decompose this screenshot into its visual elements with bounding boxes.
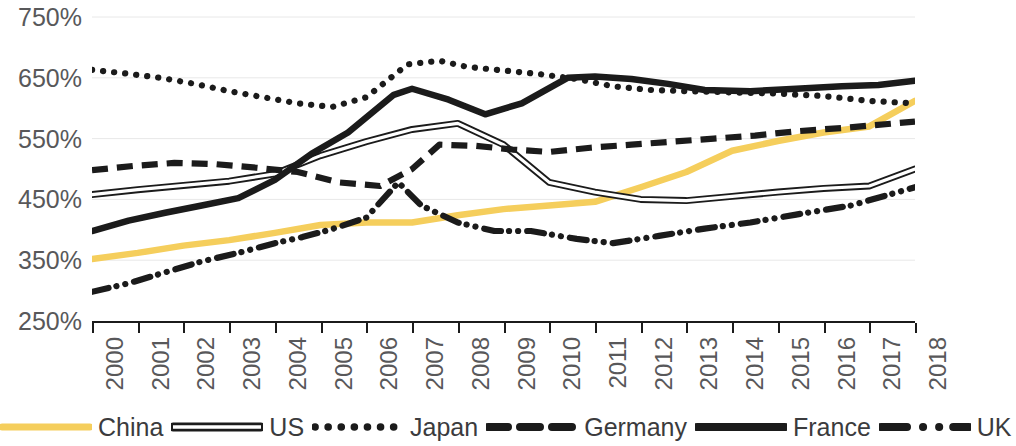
x-tick-label: 2008	[467, 337, 495, 390]
x-tick-label: 2001	[147, 337, 175, 390]
legend-swatch-japan-icon	[312, 419, 404, 435]
legend-label: Germany	[584, 413, 687, 442]
plot-area	[92, 14, 915, 321]
series-line-germany	[92, 122, 915, 186]
chart-legend: China USJapanGermanyFranceUK	[0, 408, 925, 446]
legend-swatch-uk-icon	[879, 419, 971, 435]
x-tick-label: 2011	[604, 337, 632, 389]
legend-label: Japan	[410, 413, 478, 442]
x-tick-label: 2002	[192, 337, 220, 390]
x-tick	[229, 323, 231, 333]
x-tick	[412, 323, 414, 333]
x-tick	[275, 323, 277, 333]
x-tick	[366, 323, 368, 333]
legend-swatch-france-icon	[695, 419, 787, 435]
y-tick-label: 350%	[18, 246, 82, 275]
legend-swatch-us-icon	[171, 419, 263, 435]
legend-item-germany[interactable]: Germany	[486, 408, 695, 446]
x-axis-labels: 2000200120022003200420052006200720082009…	[0, 323, 925, 418]
x-tick	[183, 323, 185, 333]
x-tick-label: 2005	[330, 337, 358, 390]
x-tick	[824, 323, 826, 333]
x-tick-label: 2004	[284, 337, 312, 390]
x-tick-label: 2000	[101, 337, 129, 390]
x-tick	[686, 323, 688, 333]
legend-label: France	[793, 413, 871, 442]
x-tick-label: 2014	[741, 337, 769, 390]
x-tick	[915, 323, 917, 333]
x-tick	[595, 323, 597, 333]
x-tick	[458, 323, 460, 333]
x-tick-label: 2006	[375, 337, 403, 390]
series-line-uk	[92, 182, 915, 291]
x-tick	[138, 323, 140, 333]
legend-swatch-germany-icon	[486, 419, 578, 435]
y-tick-label: 550%	[18, 124, 82, 153]
x-tick	[869, 323, 871, 333]
y-tick-label: 450%	[18, 185, 82, 214]
x-tick	[732, 323, 734, 333]
x-tick-label: 2018	[924, 337, 952, 390]
x-tick-label: 2012	[650, 337, 678, 390]
x-tick	[549, 323, 551, 333]
x-tick	[92, 323, 94, 333]
x-tick-label: 2015	[787, 337, 815, 390]
legend-item-china[interactable]: China	[0, 408, 171, 446]
legend-item-france[interactable]: France	[695, 408, 879, 446]
legend-label: China	[98, 413, 163, 442]
x-tick-label: 2017	[878, 337, 906, 390]
series-line-japan	[92, 61, 915, 107]
y-tick-label: 750%	[18, 3, 82, 32]
legend-item-us[interactable]: US	[171, 408, 312, 446]
x-tick-label: 2010	[558, 337, 586, 390]
legend-swatch-china-icon	[0, 419, 92, 435]
x-tick-label: 2007	[421, 337, 449, 390]
x-tick	[641, 323, 643, 333]
y-tick-label: 650%	[18, 63, 82, 92]
legend-item-uk[interactable]: UK	[879, 408, 1016, 446]
legend-label: US	[269, 413, 304, 442]
y-axis: 750%650%550%450%350%250%	[0, 0, 90, 340]
x-tick	[321, 323, 323, 333]
x-tick-label: 2016	[833, 337, 861, 390]
x-tick	[504, 323, 506, 333]
plot-svg	[92, 14, 915, 321]
legend-item-japan[interactable]: Japan	[312, 408, 486, 446]
series-line-us	[92, 123, 915, 200]
x-tick-label: 2009	[513, 337, 541, 390]
x-tick	[778, 323, 780, 333]
legend-label: UK	[977, 413, 1012, 442]
x-tick-label: 2003	[238, 337, 266, 390]
x-tick-label: 2013	[695, 337, 723, 390]
